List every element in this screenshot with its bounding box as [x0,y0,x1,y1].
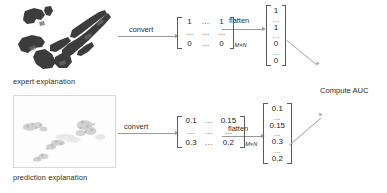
matrix-cell: 1 [182,17,198,28]
matrix-cell: … [201,116,217,127]
vector-cell: … [273,16,280,23]
matrix-cell: 0.2 [217,138,241,149]
expert-matrix-grid: 1 … 1 … … … 0 … 0 [182,17,230,49]
prediction-vector-column: 0.1 … 0.15 … 0.3 … 0.2 [268,103,288,164]
matrix-cell: 0 [214,39,230,50]
matrix-cell: 0.3 [182,138,201,149]
matrix-row: 0.1 … 0.15 [182,116,241,127]
vector-cell: 0.1 [272,104,283,114]
matrix-row: … … … [182,28,230,39]
auc-connector-top [286,40,316,65]
vector-cell: 1 [274,23,278,33]
matrix-row: … … … [182,127,241,138]
convert-label-bottom: convert [124,122,148,131]
matrix-cell: 0.15 [217,116,241,127]
vector-bracket-right [282,5,287,66]
vector-cell: … [273,32,280,39]
auc-connector-bottom [289,117,321,145]
auc-arrowhead-bottom [317,111,323,117]
prediction-heatmap-svg [14,96,115,167]
vector-cell: 0.15 [270,121,286,131]
vector-cell: 0.2 [272,154,283,164]
vector-cell: 0 [274,39,278,49]
matrix-row: 1 … 1 [182,17,230,28]
prediction-explanation-caption: prediction explanation [13,173,87,182]
auc-arrowhead-top [314,61,320,67]
expert-vector-column: 1 … 1 … 0 … 0 [271,5,282,66]
vector-cell: 0 [274,56,278,66]
expert-matrix: 1 … 1 … … … 0 … 0 M×N [177,17,246,49]
convert-arrow-top [118,36,176,37]
diagram-canvas: expert explanation [0,0,387,193]
matrix-row: 0 … 0 [182,39,230,50]
matrix-cell: 1 [214,17,230,28]
expert-matrix-subscript: M×N [234,42,246,49]
vector-cell: … [274,114,281,121]
prediction-matrix: 0.1 … 0.15 … … … 0.3 … 0.2 M×N [177,116,257,148]
matrix-cell: … [201,138,217,149]
expert-explanation-image [12,2,116,72]
matrix-cell: … [217,127,241,138]
prediction-matrix-grid: 0.1 … 0.15 … … … 0.3 … 0.2 [182,116,241,148]
matrix-cell: … [214,28,230,39]
expert-flattened-vector: 1 … 1 … 0 … 0 [266,5,286,66]
expert-explanation-caption: expert explanation [13,77,75,86]
matrix-cell: … [182,127,201,138]
vector-cell: … [274,147,281,154]
matrix-cell: … [201,127,217,138]
matrix-cell: 0.1 [182,116,201,127]
matrix-cell: … [198,28,214,39]
vector-cell: … [273,49,280,56]
convert-label-top: convert [129,25,153,34]
prediction-matrix-subscript: M×N [245,141,257,148]
matrix-row: 0.3 … 0.2 [182,138,241,149]
expert-mask-svg [12,2,116,72]
prediction-explanation-image [13,95,116,168]
matrix-cell: … [182,28,198,39]
matrix-cell: … [198,17,214,28]
matrix-cell: … [198,39,214,50]
convert-arrow-bottom [118,133,176,134]
matrix-cell: 0 [182,39,198,50]
vector-cell: 0.3 [272,137,283,147]
vector-cell: 1 [274,6,278,16]
vector-cell: … [274,130,281,137]
compute-auc-label: Compute AUC [320,86,369,95]
vector-bracket-right [287,103,292,164]
prediction-flattened-vector: 0.1 … 0.15 … 0.3 … 0.2 [263,103,292,164]
